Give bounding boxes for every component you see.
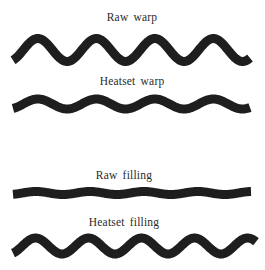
yarn-crimp-diagram: Raw warp Heatset warp Raw filling Heatse… bbox=[0, 0, 265, 270]
wave-heatset-warp bbox=[13, 99, 250, 109]
wave-raw-warp bbox=[13, 39, 250, 62]
yarn-heatset-warp: Heatset warp bbox=[13, 75, 250, 109]
yarn-label: Heatset warp bbox=[100, 75, 165, 88]
yarn-raw-warp: Raw warp bbox=[13, 11, 250, 62]
yarn-heatset-filling: Heatset filling bbox=[13, 216, 256, 254]
wave-raw-filling bbox=[13, 192, 251, 195]
yarn-label: Raw filling bbox=[96, 169, 152, 182]
yarn-raw-filling: Raw filling bbox=[13, 169, 251, 195]
yarn-label: Heatset filling bbox=[89, 216, 160, 229]
yarn-label: Raw warp bbox=[107, 11, 158, 24]
wave-heatset-filling bbox=[13, 238, 256, 254]
